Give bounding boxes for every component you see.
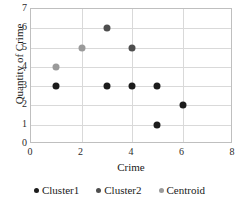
data-point [179, 102, 186, 109]
x-axis-tick-label: 2 [71, 147, 91, 157]
gridline-vertical [132, 9, 133, 142]
legend-item[interactable]: Cluster2 [96, 184, 141, 196]
legend-item[interactable]: Cluster1 [34, 184, 79, 196]
data-point [103, 25, 110, 32]
data-point [53, 63, 60, 70]
data-point [103, 83, 110, 90]
legend-marker-icon [34, 188, 39, 193]
legend-item[interactable]: Centroid [159, 184, 206, 196]
data-point [78, 44, 85, 51]
gridline-horizontal [31, 28, 231, 29]
gridline-vertical [183, 9, 184, 142]
gridline-horizontal [31, 105, 231, 106]
scatter-chart: 01234567 02468 Crime Quantity of Crime C… [0, 0, 239, 202]
legend-label: Centroid [167, 184, 206, 196]
data-point [53, 83, 60, 90]
gridline-horizontal [31, 67, 231, 68]
data-point [129, 44, 136, 51]
legend-label: Cluster2 [104, 184, 141, 196]
data-point [154, 83, 161, 90]
plot-area [30, 8, 232, 143]
gridline-horizontal [31, 125, 231, 126]
x-axis-tick-label: 6 [172, 147, 192, 157]
x-axis-title: Crime [30, 161, 232, 173]
x-axis-tick-label: 8 [222, 147, 239, 157]
x-axis-tick-label: 4 [121, 147, 141, 157]
legend-label: Cluster1 [42, 184, 79, 196]
y-axis-title: Quantity of Crime [13, 4, 25, 124]
legend-marker-icon [159, 188, 164, 193]
gridline-vertical [82, 9, 83, 142]
data-point [154, 121, 161, 128]
data-point [129, 83, 136, 90]
legend-marker-icon [96, 188, 101, 193]
chart-legend: Cluster1Cluster2Centroid [0, 182, 239, 198]
x-axis-tick-labels: 02468 [30, 147, 232, 159]
x-axis-tick-label: 0 [20, 147, 40, 157]
